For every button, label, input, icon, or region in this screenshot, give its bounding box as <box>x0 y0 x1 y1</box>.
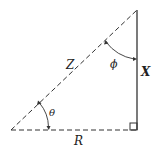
impedance-triangle-diagram: Z R X θ ϕ <box>0 0 161 152</box>
label-z: Z <box>65 58 75 72</box>
label-r: R <box>73 134 83 148</box>
label-x: X <box>140 65 151 79</box>
theta-arrow-head-icon <box>47 126 51 130</box>
theta-angle-arc <box>40 103 49 127</box>
phi-angle-arc <box>106 42 134 59</box>
label-theta: θ <box>49 107 55 118</box>
right-angle-marker <box>130 123 137 130</box>
label-phi: ϕ <box>110 58 118 71</box>
